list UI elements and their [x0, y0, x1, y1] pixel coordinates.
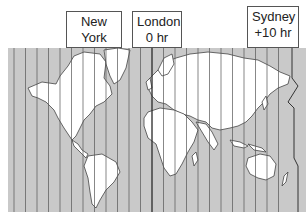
- label-london: London 0 hr: [132, 11, 182, 48]
- city-name: London: [137, 14, 177, 30]
- label-new-york: New York − 5 hr: [66, 11, 122, 48]
- utc-offset: 0 hr: [137, 30, 177, 46]
- city-name: Sydney: [252, 9, 294, 25]
- city-name: New York: [71, 14, 117, 46]
- world-time-zone-map: [8, 48, 306, 212]
- label-sydney: Sydney +10 hr: [247, 6, 299, 48]
- utc-offset: +10 hr: [252, 25, 294, 41]
